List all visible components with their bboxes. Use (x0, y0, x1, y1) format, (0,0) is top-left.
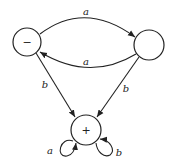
transition-a-top (40, 18, 135, 37)
transition-a-bottom-label: a (83, 56, 89, 67)
state-plus-label: + (81, 124, 90, 137)
self-loop-a (60, 140, 76, 156)
transition-b-left-label: b (42, 79, 48, 90)
state-minus: − (13, 28, 41, 56)
self-loop-b (96, 139, 112, 156)
transition-a-top-label: a (83, 6, 89, 17)
state-middle (134, 30, 164, 60)
state-minus-label: − (22, 36, 31, 49)
state-plus: + (71, 115, 101, 145)
self-loop-b-label: b (116, 147, 122, 158)
self-loop-a-label: a (47, 145, 53, 156)
transition-b-right-label: b (123, 83, 129, 94)
automaton-diagram: − + a a b b a b (0, 0, 174, 164)
